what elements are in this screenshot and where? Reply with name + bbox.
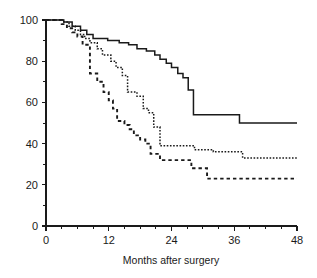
survival-curve-2-dotted bbox=[46, 20, 297, 158]
plot-area: 020406080100 012243648 Months after surg… bbox=[0, 0, 317, 278]
x-tick-label: 36 bbox=[228, 234, 240, 246]
survival-curve-3-dashed bbox=[46, 20, 297, 179]
survival-chart: 020406080100 012243648 Months after surg… bbox=[0, 0, 317, 278]
y-tick-label: 60 bbox=[26, 96, 38, 108]
x-axis-title: Months after surgery bbox=[123, 254, 220, 266]
x-axis-ticks bbox=[46, 226, 297, 231]
survival-curves bbox=[46, 20, 297, 179]
y-tick-label: 0 bbox=[32, 220, 38, 232]
y-tick-label: 20 bbox=[26, 179, 38, 191]
x-tick-label: 12 bbox=[103, 234, 115, 246]
x-tick-label: 0 bbox=[43, 234, 49, 246]
x-tick-label: 48 bbox=[291, 234, 303, 246]
x-axis-tick-labels: 012243648 bbox=[43, 234, 303, 246]
survival-curve-1-solid bbox=[46, 20, 297, 123]
y-axis-ticks bbox=[42, 20, 47, 226]
x-tick-label: 24 bbox=[165, 234, 177, 246]
y-tick-label: 40 bbox=[26, 138, 38, 150]
y-tick-label: 80 bbox=[26, 55, 38, 67]
y-axis-tick-labels: 020406080100 bbox=[20, 14, 38, 232]
y-tick-label: 100 bbox=[20, 14, 38, 26]
